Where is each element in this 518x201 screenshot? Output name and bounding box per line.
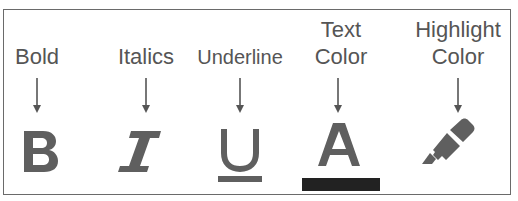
label-italics: Italics	[108, 43, 184, 70]
arrow-down-icon	[452, 78, 464, 114]
underline-icon	[217, 129, 265, 184]
label-underline-line1: Underline	[197, 46, 283, 68]
label-bold-line1: Bold	[15, 44, 59, 69]
arrow-down-icon	[332, 78, 344, 114]
arrow-down-icon	[234, 78, 246, 114]
label-text-color: Text Color	[305, 16, 377, 70]
text-color-icon	[300, 121, 384, 193]
arrow-down-icon	[31, 78, 43, 114]
arrow-down-icon	[140, 78, 152, 114]
label-underline: Underline	[190, 44, 290, 71]
italic-icon	[117, 129, 163, 174]
label-highlight-color-line2: Color	[404, 43, 512, 70]
highlighter-icon	[420, 118, 476, 168]
label-highlight-color: Highlight Color	[404, 16, 512, 70]
label-text-color-line1: Text	[305, 16, 377, 43]
label-highlight-color-line1: Highlight	[404, 16, 512, 43]
label-bold: Bold	[10, 43, 64, 70]
label-italics-line1: Italics	[118, 44, 174, 69]
label-text-color-line2: Color	[305, 43, 377, 70]
bold-icon	[22, 129, 60, 174]
